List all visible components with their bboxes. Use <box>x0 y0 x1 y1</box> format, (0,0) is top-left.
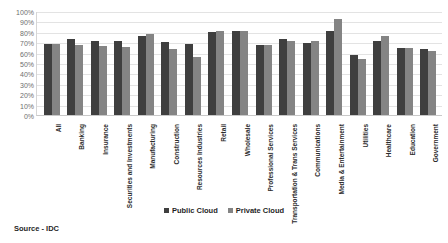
x-axis-category: Insurance <box>86 124 110 202</box>
y-axis-tick-label: 60% <box>4 50 34 57</box>
bar-group <box>393 12 417 115</box>
bar-group <box>205 12 229 115</box>
bar-private-cloud <box>381 36 389 115</box>
x-axis-category-label: Banking <box>78 124 85 150</box>
bar-group <box>158 12 182 115</box>
legend-swatch-icon-private-cloud <box>228 208 233 213</box>
bar-group <box>40 12 64 115</box>
bar-group <box>252 12 276 115</box>
legend-item-private-cloud: Private Cloud <box>228 206 284 215</box>
bar-private-cloud <box>75 45 83 115</box>
x-axis-category-label: Media & Entertainment <box>338 124 345 194</box>
bar-private-cloud <box>169 49 177 115</box>
bar-public-cloud <box>256 45 264 115</box>
x-axis-category: Manufacturing <box>133 124 157 202</box>
x-axis-category: Media & Entertainment <box>322 124 346 202</box>
bar-public-cloud <box>138 36 146 115</box>
legend-label-private-cloud: Private Cloud <box>236 206 284 215</box>
bar-public-cloud <box>161 42 169 115</box>
x-axis-category-label: Government <box>432 124 439 162</box>
x-axis-category: Communications <box>299 124 323 202</box>
x-axis-category: Professional Services <box>251 124 275 202</box>
source-note: Source - IDC <box>14 224 59 233</box>
x-axis-category-label: Securities and Investments <box>126 124 133 208</box>
bar-private-cloud <box>405 48 413 115</box>
bar-private-cloud <box>216 31 224 115</box>
y-axis-tick-label: 90% <box>4 19 34 26</box>
bar-private-cloud <box>52 44 60 115</box>
bar-private-cloud <box>287 41 295 115</box>
bar-private-cloud <box>334 19 342 115</box>
bar-group <box>87 12 111 115</box>
bar-private-cloud <box>122 47 130 115</box>
x-axis-category: Transportation & Trans Services <box>275 124 299 202</box>
legend-item-public-cloud: Public Cloud <box>164 206 218 215</box>
cloud-adoption-bar-chart: 100%90%80%70%60%50%40%30%20%10%0% AllBan… <box>0 0 448 243</box>
bar-private-cloud <box>264 45 272 115</box>
x-axis-category-label: All <box>55 124 62 132</box>
bar-private-cloud <box>311 41 319 115</box>
x-axis-category-label: Professional Services <box>267 124 274 192</box>
x-axis-category: All <box>39 124 63 202</box>
x-axis-category-label: Construction <box>173 124 180 164</box>
bar-group <box>275 12 299 115</box>
y-axis-tick-label: 0% <box>4 113 34 120</box>
y-axis-tick-label: 100% <box>4 9 34 16</box>
bar-group <box>64 12 88 115</box>
bar-private-cloud <box>99 46 107 115</box>
bar-public-cloud <box>208 32 216 115</box>
grid-area <box>36 12 442 116</box>
bar-public-cloud <box>373 41 381 115</box>
legend-label-public-cloud: Public Cloud <box>172 206 218 215</box>
x-axis-category-label: Retail <box>220 124 227 142</box>
bar-public-cloud <box>420 49 428 115</box>
bar-group <box>322 12 346 115</box>
bar-private-cloud <box>146 34 154 115</box>
x-axis-category-label: Education <box>409 124 416 155</box>
bar-public-cloud <box>326 31 334 115</box>
y-axis-tick-label: 70% <box>4 40 34 47</box>
x-axis-category: Retail <box>204 124 228 202</box>
x-axis-category: Education <box>393 124 417 202</box>
plot-area: 100%90%80%70%60%50%40%30%20%10%0% <box>0 12 448 124</box>
x-axis-category-label: Wholesale <box>244 124 251 156</box>
bar-public-cloud <box>91 41 99 115</box>
x-axis-category-label: Insurance <box>102 124 109 155</box>
bar-group <box>299 12 323 115</box>
x-axis-category: Healthcare <box>369 124 393 202</box>
y-axis-tick-label: 50% <box>4 61 34 68</box>
bar-group <box>181 12 205 115</box>
bar-public-cloud <box>279 39 287 115</box>
bar-public-cloud <box>185 44 193 115</box>
x-axis-category: Banking <box>63 124 87 202</box>
x-axis-category: Resources Industries <box>181 124 205 202</box>
x-axis-labels: AllBankingInsuranceSecurities and Invest… <box>36 124 442 202</box>
bar-public-cloud <box>350 55 358 115</box>
bar-public-cloud <box>232 31 240 115</box>
x-axis-category-label: Communications <box>314 124 321 177</box>
bar-private-cloud <box>358 59 366 115</box>
y-axis-tick-label: 30% <box>4 81 34 88</box>
y-axis-tick-label: 80% <box>4 29 34 36</box>
bar-group <box>346 12 370 115</box>
bar-public-cloud <box>67 39 75 115</box>
bar-private-cloud <box>193 57 201 115</box>
bar-group <box>369 12 393 115</box>
x-axis-category: Securities and Investments <box>110 124 134 202</box>
bar-group <box>417 12 441 115</box>
bar-private-cloud <box>240 31 248 115</box>
bar-group <box>134 12 158 115</box>
bar-public-cloud <box>397 48 405 115</box>
bar-group <box>228 12 252 115</box>
x-axis-category-label: Manufacturing <box>149 124 156 169</box>
x-axis-category: Utilities <box>346 124 370 202</box>
x-axis-category-label: Utilities <box>362 124 369 147</box>
x-axis-category: Wholesale <box>228 124 252 202</box>
bars-layer <box>37 12 442 115</box>
x-axis-category: Construction <box>157 124 181 202</box>
y-axis-tick-label: 20% <box>4 92 34 99</box>
chart-legend: Public Cloud Private Cloud <box>0 206 448 215</box>
y-axis: 100%90%80%70%60%50%40%30%20%10%0% <box>4 12 34 116</box>
x-axis-category-label: Resources Industries <box>196 124 203 190</box>
y-axis-tick-label: 10% <box>4 102 34 109</box>
